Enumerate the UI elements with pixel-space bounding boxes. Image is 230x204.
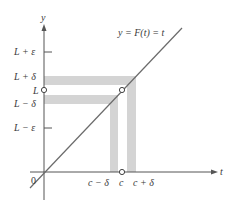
y-axis-arrow-icon	[42, 24, 47, 31]
y-tick-label-l: L	[32, 85, 39, 96]
y-axis-L-circle-icon	[41, 87, 46, 92]
x-axis-arrow-icon	[211, 170, 218, 175]
origin-label: 0	[31, 175, 36, 186]
band-horizontal-lower	[44, 95, 118, 104]
epsilon-delta-diagram: y t 0 y = F(t) = t L + ε L + δ L L − δ L…	[0, 0, 230, 204]
y-tick-label-l-plus-eps: L + ε	[13, 46, 35, 57]
band-vertical-right	[127, 76, 136, 172]
band-horizontal-upper	[44, 76, 136, 85]
function-line	[30, 28, 182, 188]
x-tick-label-c: c	[119, 177, 124, 188]
x-tick-label-c-minus-delta: c − δ	[88, 177, 109, 188]
y-tick-label-l-minus-delta: L − δ	[13, 98, 36, 109]
x-axis-label: t	[220, 166, 223, 177]
x-tick-label-c-plus-delta: c + δ	[133, 177, 154, 188]
x-axis-c-circle-icon	[119, 169, 124, 174]
band-vertical-left	[110, 95, 118, 172]
y-axis-label: y	[40, 12, 46, 23]
y-tick-label-l-minus-eps: L − ε	[13, 122, 35, 133]
function-label: y = F(t) = t	[117, 27, 164, 39]
diagram-canvas: y t 0 y = F(t) = t L + ε L + δ L L − δ L…	[0, 0, 230, 204]
y-tick-label-l-plus-delta: L + δ	[13, 71, 36, 82]
limit-point-circle-icon	[119, 87, 124, 92]
